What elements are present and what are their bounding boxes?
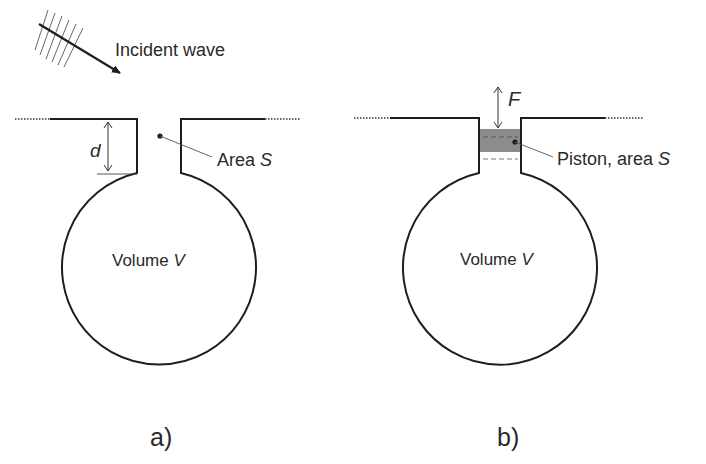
area-leader-line bbox=[160, 136, 212, 157]
volume-v-label-b: Volume V bbox=[460, 250, 534, 269]
panel-b-caption: b) bbox=[497, 423, 519, 451]
incident-wave-arrow-icon bbox=[39, 24, 120, 73]
piston-area-label: Piston, area S bbox=[557, 149, 670, 169]
dimension-d-label: d bbox=[90, 140, 102, 161]
force-f-label: F bbox=[508, 88, 522, 110]
wavefront-hatch-icon bbox=[35, 10, 83, 67]
helmholtz-resonator-figure: Incident wave d Area S Volume V a) bbox=[0, 0, 706, 464]
panel-b: F Piston, area S Volume V b) bbox=[354, 87, 670, 451]
panel-a: Incident wave d Area S Volume V a) bbox=[15, 10, 300, 451]
volume-v-label-a: Volume V bbox=[112, 251, 186, 270]
panel-a-caption: a) bbox=[150, 423, 172, 451]
area-s-label: Area S bbox=[217, 150, 272, 170]
diagram-svg: Incident wave d Area S Volume V a) bbox=[0, 0, 706, 464]
incident-wave-label: Incident wave bbox=[115, 40, 225, 60]
